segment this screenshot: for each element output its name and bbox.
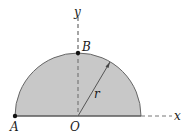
point-b-label: B: [81, 40, 91, 54]
point-b-dot: [76, 51, 80, 55]
point-a-dot: [13, 114, 17, 118]
y-axis-label: y: [73, 5, 81, 19]
point-a-label: A: [9, 120, 19, 134]
x-axis-label: x: [174, 109, 181, 123]
origin-label: O: [70, 120, 80, 134]
semicircle-diagram: y x B A O r: [0, 0, 188, 134]
